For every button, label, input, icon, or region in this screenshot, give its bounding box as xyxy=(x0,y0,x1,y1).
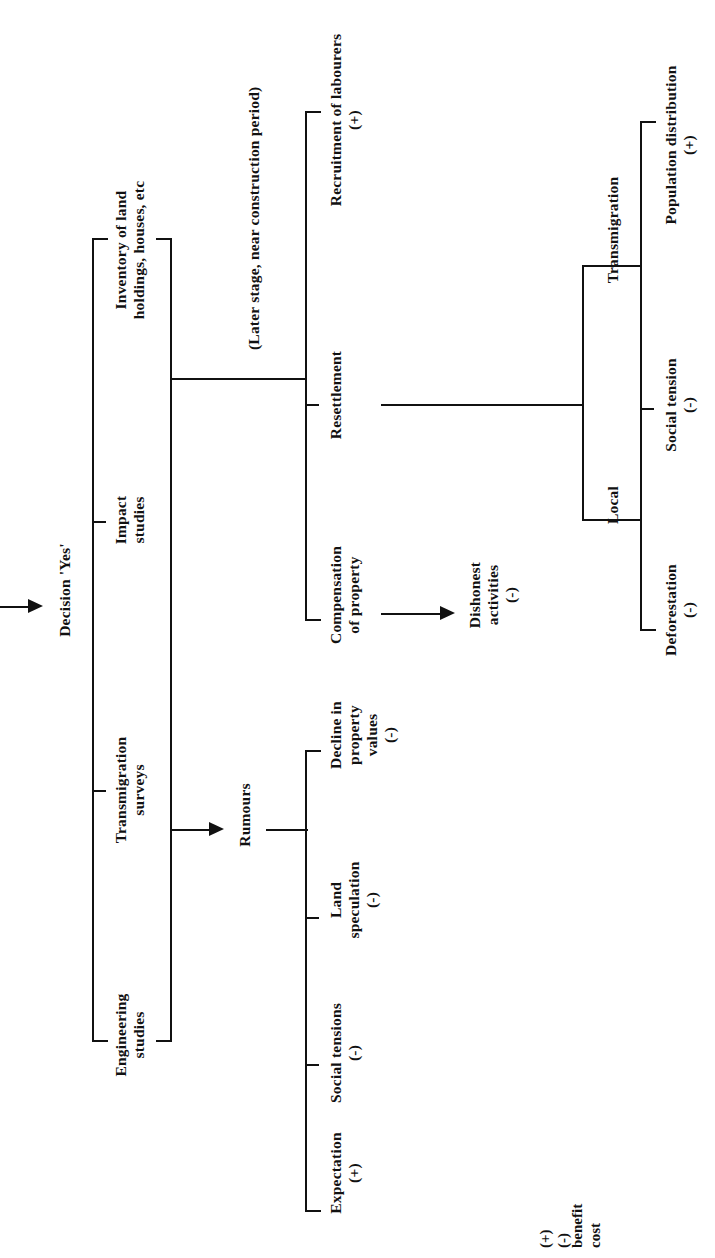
outcome-label-deforestation-text: Deforestation xyxy=(662,564,679,656)
link-local-to-deforestation xyxy=(596,519,642,521)
studies-tick-impact xyxy=(92,521,106,523)
studies-inner-spine xyxy=(170,238,172,1042)
rumours-tick-social-tensions xyxy=(305,1064,319,1066)
rumours-arrow-head xyxy=(209,822,224,836)
outcomes-bracket-spine xyxy=(640,121,642,631)
rumours-child-social-tensions-sign: (-) xyxy=(345,1045,362,1061)
studies-bracket-cap-top xyxy=(92,238,108,240)
studies-bracket-spine xyxy=(92,238,94,1042)
study-label-engineering: Engineering studies xyxy=(112,925,148,1145)
study-label-inventory: Inventory of land holdings, houses, etc xyxy=(112,110,148,390)
stage-note-label: (Later stage, near construction period) xyxy=(245,0,263,350)
dishonest-activities-sign: (-) xyxy=(502,587,519,603)
rumours-child-land-speculation-sign: (-) xyxy=(363,892,380,908)
dishonest-arrow-shaft xyxy=(381,613,443,615)
outcome-label-population-distribution-sign: (+) xyxy=(680,135,697,155)
rumours-bracket-spine xyxy=(305,750,307,1212)
rumours-child-decline-text: Decline in property values xyxy=(327,701,380,769)
construction-label-resettlement: Resettlement xyxy=(327,290,345,500)
outcomes-cap-top xyxy=(640,121,656,123)
outcome-label-population-distribution: Population distribution(+) xyxy=(662,5,698,285)
rumours-arrow-shaft xyxy=(170,829,212,831)
rumours-child-expectation: Expectation(+) xyxy=(327,1088,363,1258)
legend-meanings: benefit cost xyxy=(568,1128,604,1248)
groups-bracket-spine xyxy=(582,265,584,521)
group-label-local: Local xyxy=(604,440,622,570)
construction-label-recruitment-text: Recruitment of labourers xyxy=(327,34,344,206)
construction-tick-resettlement xyxy=(305,404,319,406)
outcomes-tick-social-tension xyxy=(640,408,654,410)
construction-bracket-spine xyxy=(305,111,307,621)
outcome-label-deforestation: Deforestation(-) xyxy=(662,520,698,700)
dishonest-arrow-head xyxy=(440,606,455,620)
outcome-label-population-distribution-text: Population distribution xyxy=(662,65,679,224)
outcome-label-social-tension-sign: (-) xyxy=(680,397,697,413)
studies-bracket-cap-bottom xyxy=(92,1040,108,1042)
rumours-tick-land-speculation xyxy=(305,917,319,919)
studies-tick-transmigration xyxy=(92,790,106,792)
dishonest-activities-text: Dishonest activities xyxy=(466,562,501,628)
outcomes-cap-bottom xyxy=(640,629,656,631)
link-transmigration-to-population xyxy=(596,265,642,267)
resettlement-to-groups-connector xyxy=(381,404,584,406)
study-label-transmigration-surveys: Transmigration surveys xyxy=(112,680,148,900)
rumours-child-decline: Decline in property values(-) xyxy=(327,645,399,825)
connector-to-construction xyxy=(170,378,306,380)
rumours-child-land-speculation-text: Land speculation xyxy=(327,861,362,938)
rumours-child-expectation-sign: (+) xyxy=(345,1163,362,1183)
outcome-label-social-tension-text: Social tension xyxy=(662,358,679,452)
root-label: Decision 'Yes' xyxy=(56,490,74,690)
rumours-child-expectation-text: Expectation xyxy=(327,1132,344,1213)
construction-label-recruitment: Recruitment of labourers(+) xyxy=(327,0,363,250)
diagram-canvas: Decision 'Yes' Inventory of land holding… xyxy=(0,0,715,1258)
construction-cap-top xyxy=(305,111,321,113)
construction-cap-bottom xyxy=(305,619,321,621)
rumours-cap-bottom xyxy=(305,1210,321,1212)
rumours-to-children-connector xyxy=(266,829,308,831)
study-label-impact: Impact studies xyxy=(112,420,148,620)
studies-inner-cap-bottom xyxy=(156,1040,172,1042)
rumours-label: Rumours xyxy=(236,725,254,905)
outcome-label-social-tension: Social tension(-) xyxy=(662,310,698,500)
root-arrow-head xyxy=(28,599,43,613)
group-label-transmigration: Transmigration xyxy=(604,130,622,330)
rumours-cap-top xyxy=(305,750,321,752)
rumours-child-decline-sign: (-) xyxy=(381,727,398,743)
studies-inner-cap-top xyxy=(156,238,172,240)
construction-label-recruitment-sign: (+) xyxy=(345,110,362,130)
outcome-label-deforestation-sign: (-) xyxy=(680,602,697,618)
dishonest-activities-label: Dishonest activities(-) xyxy=(466,500,520,690)
legend-symbols: (+) (-) xyxy=(536,1128,572,1248)
root-arrow-shaft xyxy=(0,606,30,608)
